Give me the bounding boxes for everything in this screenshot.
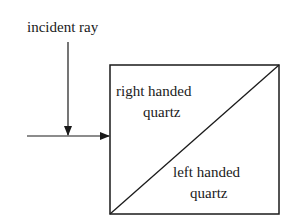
right-handed-label-line2: quartz xyxy=(143,104,180,121)
right-handed-label-line1: right handed xyxy=(116,83,191,100)
incident-ray-label: incident ray xyxy=(27,19,98,36)
left-handed-label-line1: left handed xyxy=(173,164,240,181)
left-handed-label-line2: quartz xyxy=(190,185,227,202)
